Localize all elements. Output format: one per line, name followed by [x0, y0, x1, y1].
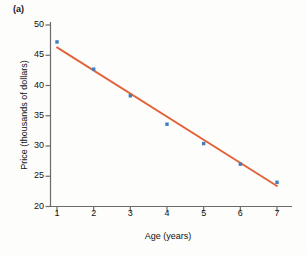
y-axis-tick-label: 50 [24, 19, 44, 29]
x-axis-tick-label: 6 [232, 208, 248, 218]
regression-line [57, 47, 277, 186]
x-axis-tick-label: 3 [122, 208, 138, 218]
regression-line-segment [57, 47, 277, 186]
chart-figure: (a) 20253035404550 1234567 Price (thousa… [0, 0, 307, 255]
x-axis-tick-label: 5 [196, 208, 212, 218]
data-point-marker [275, 181, 278, 184]
data-point-marker [239, 162, 242, 165]
x-axis-title: Age (years) [57, 231, 279, 241]
data-point-marker [202, 142, 205, 145]
x-axis-tick-label: 4 [159, 208, 175, 218]
x-axis-tick-labels: 1234567 [0, 208, 307, 222]
data-point-marker [165, 123, 168, 126]
y-axis-title: Price (thousands of dollars) [19, 30, 29, 200]
data-point-markers [55, 40, 278, 184]
x-axis-tick-label: 7 [269, 208, 285, 218]
data-point-marker [92, 67, 95, 70]
x-axis-tick-label: 1 [49, 208, 65, 218]
axes [51, 22, 293, 207]
data-point-marker [55, 40, 58, 43]
y-axis-ticks [46, 25, 51, 207]
data-point-marker [129, 94, 132, 97]
x-axis-tick-label: 2 [86, 208, 102, 218]
